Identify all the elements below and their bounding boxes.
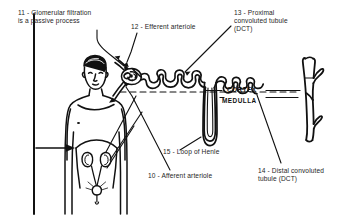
nephron-diagram-artwork [0, 0, 361, 219]
label-10-afferent-arteriole: 10 - Afferent arteriole [148, 172, 212, 180]
urinary-system [82, 152, 111, 204]
label-12-efferent-arteriole: 12 - Efferent arteriole [131, 23, 196, 31]
label-11-glomerular-filtration: 11 - Glomerular filtration is a passive … [18, 9, 91, 25]
label-13-proximal-convoluted-tubule: 13 - Proximal convoluted tubule (DCT) [234, 9, 288, 34]
figure-canvas: 11 - Glomerular filtration is a passive … [0, 0, 361, 219]
region-label-medulla: MEDULLA [222, 97, 257, 104]
label-14-distal-convoluted-tubule: 14 - Distal convoluted tubule (DCT) [258, 167, 324, 183]
arrowhead-13-icon [185, 72, 191, 76]
collecting-duct-branch [303, 57, 324, 141]
magnification-rays [106, 96, 142, 168]
afferent-arteriole-vessel [113, 82, 126, 100]
human-figure [65, 56, 127, 215]
proximal-convoluted-tubule [141, 70, 205, 89]
label-15-loop-of-henle: 15 - Loop of Henle [163, 148, 219, 156]
region-label-cortex: CORTEX [227, 86, 257, 93]
glomerulus-group [122, 69, 142, 85]
